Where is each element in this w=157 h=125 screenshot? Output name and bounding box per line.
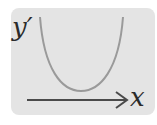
x-label: x	[130, 84, 145, 110]
y-prime-label: y′	[12, 14, 33, 40]
parabola-curve	[40, 17, 123, 91]
